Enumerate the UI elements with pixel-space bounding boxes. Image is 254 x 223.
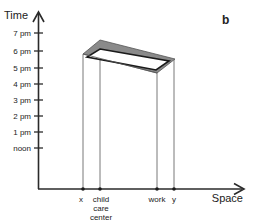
place-dot-work xyxy=(155,187,159,191)
place-label-work: work xyxy=(148,195,167,204)
place-dot-child-care xyxy=(98,187,102,191)
tick-label-6pm: 6 pm xyxy=(13,47,31,56)
tick-label-3pm: 3 pm xyxy=(13,96,31,105)
place-dot-x xyxy=(81,187,85,191)
tick-label-4pm: 4 pm xyxy=(13,80,31,89)
place-label-center: center xyxy=(90,213,113,222)
space-time-prism xyxy=(83,40,175,73)
place-labels: x child care center work y xyxy=(79,195,176,222)
place-label-child: child xyxy=(93,195,109,204)
place-label-x: x xyxy=(79,195,83,204)
tick-label-5pm: 5 pm xyxy=(13,64,31,73)
x-axis-title: Space xyxy=(212,192,243,204)
place-label-y: y xyxy=(172,195,176,204)
space-axis: Space xyxy=(38,184,244,205)
tick-label-1pm: 1 pm xyxy=(13,128,31,137)
place-dot-y xyxy=(172,187,176,191)
time-geography-diagram: b Time 7 pm 6 pm 5 pm 4 pm 3 pm 2 pm 1 p… xyxy=(0,0,254,223)
tick-label-2pm: 2 pm xyxy=(13,112,31,121)
tick-label-7pm: 7 pm xyxy=(13,29,31,38)
tick-label-noon: noon xyxy=(13,144,31,153)
y-axis-title: Time xyxy=(4,9,28,21)
place-label-care: care xyxy=(93,204,109,213)
panel-label: b xyxy=(222,13,229,27)
